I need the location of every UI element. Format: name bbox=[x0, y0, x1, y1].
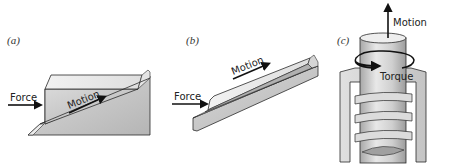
force-label-a: Force bbox=[10, 92, 37, 103]
motion-label-c: Motion bbox=[393, 17, 427, 28]
panel-a-inclined-plane: Force Motion bbox=[8, 70, 150, 135]
screw-threads bbox=[355, 92, 412, 142]
panel-c-screw: Torque Motion bbox=[340, 6, 427, 163]
force-label-b: Force bbox=[174, 91, 201, 102]
panel-b-wedge-rail: Force Motion bbox=[172, 54, 318, 131]
torque-label: Torque bbox=[379, 71, 413, 82]
simple-machines-diagram: Force Motion Force Motion bbox=[0, 0, 451, 168]
